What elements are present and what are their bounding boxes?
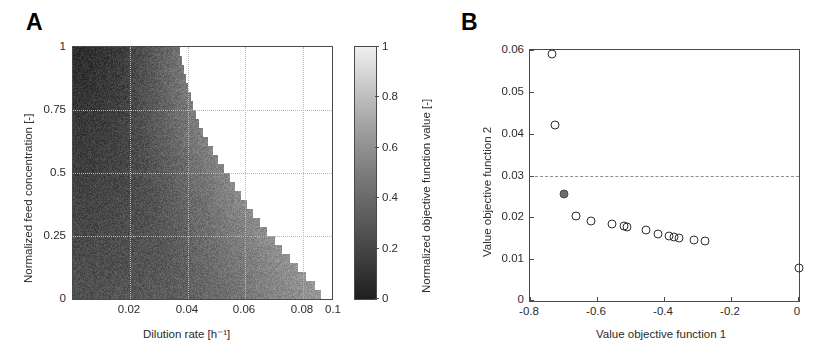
scatter-point: [608, 220, 617, 229]
panel-a-y-axis-title: Normalized feed concentration [-]: [22, 114, 34, 283]
colorbar-tick: 0.6: [382, 141, 398, 153]
panel-b-xtick: 0: [794, 305, 800, 317]
panel-a-label: A: [26, 11, 43, 34]
panel-b-ytickmark: [530, 176, 534, 177]
scatter-point: [572, 211, 581, 220]
colorbar-tickmark: [375, 96, 379, 97]
scatter-point: [550, 121, 559, 130]
panel-a-xtick: 0.1: [325, 303, 341, 315]
scatter-point: [653, 229, 662, 238]
panel-b-ytick: 0.01: [492, 252, 524, 264]
panel-b-plot-area: [529, 49, 800, 302]
colorbar-tickmark: [375, 298, 379, 299]
panel-b-xtickmark: [798, 297, 799, 301]
colorbar-title: Normalized objective function value [-]: [420, 99, 432, 293]
panel-b-ytick: 0.05: [492, 85, 524, 97]
panel-a-xtick: 0.08: [291, 303, 313, 315]
panel-a-x-axis-title: Dilution rate [h⁻¹]: [143, 327, 230, 341]
colorbar-tick: 0.2: [382, 242, 398, 254]
panel-b-xtickmark: [597, 297, 598, 301]
scatter-point: [675, 233, 684, 242]
colorbar-tickmark: [375, 147, 379, 148]
reference-line-threshold: [530, 176, 799, 177]
colorbar-tickmark: [375, 46, 379, 47]
panel-b-xtick: -0.2: [720, 305, 740, 317]
colorbar-tick: 0: [382, 292, 388, 304]
panel-b-ytickmark: [530, 50, 534, 51]
colorbar-tick: 1: [382, 40, 388, 52]
colorbar-tick: 0.8: [382, 90, 398, 102]
scatter-point-selected: [559, 190, 568, 199]
panel-a-ytick: 0.5: [33, 166, 66, 178]
panel-b-xtick: -0.4: [653, 305, 673, 317]
scatter-point: [795, 263, 804, 272]
figure-root: A 0 0.25 0.5 0.75 1 0.02 0.04 0.06 0.08 …: [0, 0, 821, 361]
scatter-point: [690, 235, 699, 244]
scatter-point: [642, 226, 651, 235]
panel-b-xtick: -0.6: [586, 305, 606, 317]
panel-b-ytickmark: [530, 92, 534, 93]
scatter-point: [586, 216, 595, 225]
scatter-point: [547, 50, 556, 59]
panel-b-ytickmark: [530, 259, 534, 260]
gridline-horizontal: [73, 110, 332, 112]
panel-b-x-axis-title: Value objective function 1: [596, 328, 726, 340]
panel-b-xtickmark: [731, 297, 732, 301]
panel-b-xtickmark: [664, 297, 665, 301]
panel-b-ytick: 0: [492, 293, 524, 305]
panel-b-ytick: 0.04: [492, 127, 524, 139]
panel-b-ytick: 0.02: [492, 210, 524, 222]
panel-a-xtick: 0.04: [176, 303, 198, 315]
panel-b-ytickmark: [530, 217, 534, 218]
panel-b-ytickmark: [530, 300, 534, 301]
panel-a-ytick: 1: [52, 40, 66, 52]
colorbar-tick: 0.4: [382, 191, 398, 203]
panel-b-ytickmark: [530, 134, 534, 135]
colorbar: [354, 46, 377, 300]
panel-b-xtick: -0.8: [519, 305, 539, 317]
panel-b-y-axis-title: Value objective function 2: [481, 127, 493, 257]
colorbar-tickmark: [375, 248, 379, 249]
scatter-point: [701, 236, 710, 245]
panel-a-xtick: 0.06: [233, 303, 255, 315]
scatter-point: [623, 223, 632, 232]
panel-a-plot-area: [72, 46, 333, 300]
gridline-horizontal: [73, 236, 332, 238]
panel-b-ytick: 0.03: [492, 169, 524, 181]
panel-b-ytick: 0.06: [492, 43, 524, 55]
panel-a-ytick: 0: [40, 292, 66, 304]
gridline-horizontal: [73, 173, 332, 175]
panel-b-label: B: [461, 11, 478, 34]
panel-a-xtick: 0.02: [118, 303, 140, 315]
colorbar-tickmark: [375, 197, 379, 198]
